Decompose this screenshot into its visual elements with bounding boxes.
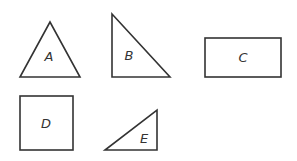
shape-d: D bbox=[20, 96, 73, 150]
shape-a: A bbox=[20, 22, 80, 77]
shape-b-label: B bbox=[125, 48, 134, 63]
shape-a-label: A bbox=[44, 49, 54, 64]
shape-c-label: C bbox=[238, 50, 248, 65]
shapes-diagram: A B C D E bbox=[0, 0, 297, 161]
shape-e-label: E bbox=[140, 131, 149, 146]
shape-c: C bbox=[205, 38, 281, 77]
shape-e: E bbox=[105, 110, 157, 150]
shape-b: B bbox=[112, 14, 170, 77]
shape-d-label: D bbox=[41, 116, 51, 131]
